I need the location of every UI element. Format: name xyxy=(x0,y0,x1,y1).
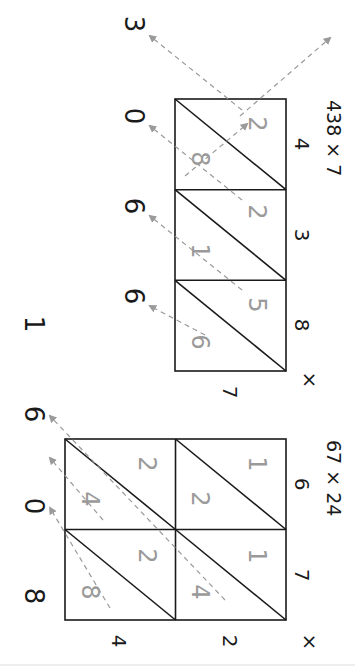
partial-ones: 1 xyxy=(186,243,214,258)
cell-diagonal xyxy=(65,530,176,621)
cell-diagonal xyxy=(65,439,176,530)
diagonal-sum-arrow xyxy=(50,458,103,520)
top-digit: 7 xyxy=(290,569,314,582)
partial-tens: 5 xyxy=(243,297,271,312)
side-digit: 2 xyxy=(218,635,242,648)
result-digit: 8 xyxy=(19,588,49,605)
result-digit: 1 xyxy=(19,316,49,333)
multiply-sign: × xyxy=(298,634,322,651)
diagonal-sum-arrow xyxy=(240,38,330,116)
cell-diagonal xyxy=(176,439,287,530)
result-digit: 6 xyxy=(19,406,49,423)
top-digit: 6 xyxy=(290,478,314,491)
partial-tens: 2 xyxy=(243,204,271,219)
side-digit: 4 xyxy=(107,635,131,648)
multiply-sign: × xyxy=(298,372,322,389)
top-digit: 3 xyxy=(290,229,314,242)
result-digit: 6 xyxy=(119,288,149,305)
result-digit: 0 xyxy=(19,498,49,515)
partial-tens: 2 xyxy=(243,116,271,131)
partial-tens: 2 xyxy=(133,456,161,471)
side-digit: 7 xyxy=(218,386,242,399)
top-digit: 8 xyxy=(290,319,314,332)
result-digit: 6 xyxy=(119,198,149,215)
lattice-diagram: 438 × 7 4 3 8 × 7 2 8 2 xyxy=(0,0,355,670)
diagonal-sum-arrow xyxy=(150,306,205,335)
partial-ones: 2 xyxy=(186,491,214,506)
cell-diagonal xyxy=(175,190,286,281)
bottom-divider xyxy=(0,664,355,666)
result-digit: 3 xyxy=(119,16,149,33)
partial-tens: 1 xyxy=(243,456,271,471)
top-digit: 4 xyxy=(290,138,314,151)
result-digit: 0 xyxy=(119,108,149,125)
problem-2: 67 × 24 6 7 × 2 4 1 2 1 4 2 4 2 8 xyxy=(19,316,345,651)
lattice-multiplication-figure: 438 × 7 4 3 8 × 7 2 8 2 xyxy=(0,0,355,670)
cell-diagonal xyxy=(176,530,287,621)
cell-diagonal xyxy=(175,99,286,190)
problem-2-title: 67 × 24 xyxy=(323,440,345,516)
problem-1: 438 × 7 4 3 8 × 7 2 8 2 xyxy=(119,16,345,399)
problem-1-title: 438 × 7 xyxy=(323,100,345,176)
cell-diagonal xyxy=(175,280,286,371)
partial-tens: 2 xyxy=(133,548,161,563)
diagonal-sum-arrow xyxy=(50,416,225,600)
partial-ones: 6 xyxy=(186,334,214,349)
partial-tens: 1 xyxy=(243,548,271,563)
partial-ones: 4 xyxy=(186,584,214,599)
